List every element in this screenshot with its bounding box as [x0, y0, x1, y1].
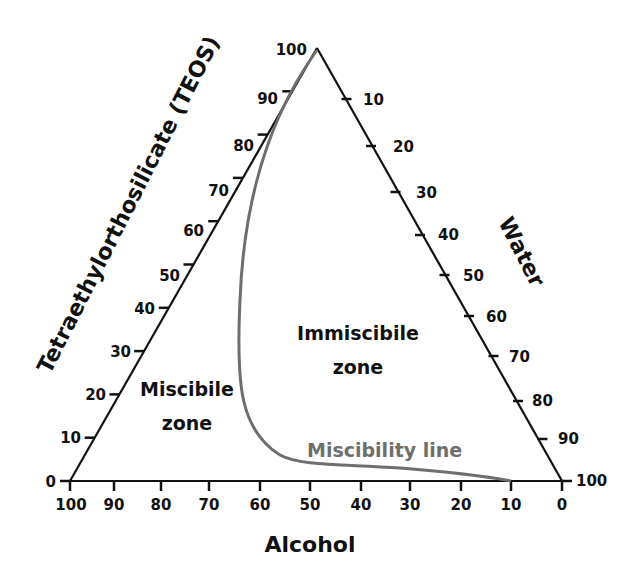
right-axis-title: Water: [494, 213, 550, 291]
tick-label: 60: [183, 222, 204, 240]
tick-label: 70: [199, 496, 220, 514]
right-axis-ticks: [342, 99, 573, 481]
tick-label: 20: [451, 496, 472, 514]
miscibility-line-label: Miscibility line: [307, 439, 462, 461]
tick-label: 60: [250, 496, 271, 514]
ternary-diagram: 0 10 20 30 40 50 60 70 80 90 100 10 20 3…: [0, 0, 639, 580]
tick-label: 20: [393, 138, 414, 156]
zone-label: Miscibile: [140, 378, 234, 400]
tick-label: 40: [134, 300, 155, 318]
tick-label: 90: [257, 90, 278, 108]
tick-label: 70: [208, 182, 229, 200]
tick-label: 90: [558, 430, 579, 448]
tick-label: 100: [55, 496, 86, 514]
tick-label: 80: [532, 392, 553, 410]
bottom-axis-tick-labels: 100 90 80 70 60 50 40 30 20 10 0: [55, 496, 567, 514]
bottom-axis-title: Alcohol: [264, 532, 355, 557]
tick-label: 30: [400, 496, 421, 514]
zone-label: zone: [162, 412, 213, 434]
tick-label: 20: [85, 386, 106, 404]
tick-label: 10: [501, 496, 522, 514]
tick-label: 30: [110, 343, 131, 361]
bottom-axis-ticks: [70, 481, 562, 491]
miscibility-curve: [239, 50, 511, 481]
tick-label: 10: [363, 91, 384, 109]
tick-label: 50: [159, 267, 180, 285]
tick-label: 60: [486, 308, 507, 326]
tick-label: 80: [233, 137, 254, 155]
zone-label: zone: [333, 356, 384, 378]
miscible-zone-label: Miscibile zone: [140, 378, 234, 434]
tick-label: 90: [104, 496, 125, 514]
immiscible-zone-label: Immiscibile zone: [297, 322, 419, 378]
tick-label: 80: [151, 496, 172, 514]
right-axis-tick-labels: 10 20 30 40 50 60 70 80 90 100: [363, 91, 607, 490]
tick-label: 70: [509, 348, 530, 366]
tick-label: 0: [557, 496, 567, 514]
tick-label: 50: [463, 267, 484, 285]
tick-label: 10: [60, 429, 81, 447]
tick-label: 40: [351, 496, 372, 514]
tick-label: 100: [576, 472, 607, 490]
tick-label: 100: [276, 41, 307, 59]
left-axis-title: Tetraethylorthosilicate (TEOS): [32, 32, 224, 377]
triangle-frame: [70, 48, 562, 481]
tick-label: 40: [438, 226, 459, 244]
zone-label: Immiscibile: [297, 322, 419, 344]
tick-label: 0: [46, 473, 56, 491]
tick-label: 50: [300, 496, 321, 514]
tick-label: 30: [416, 184, 437, 202]
